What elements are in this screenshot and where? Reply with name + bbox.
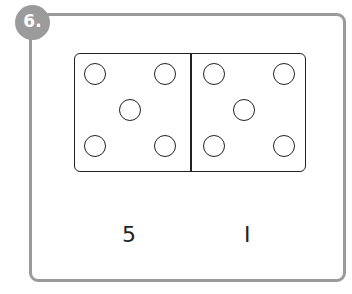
pip-icon bbox=[203, 135, 225, 157]
pip-icon bbox=[203, 63, 225, 85]
pip-icon bbox=[119, 99, 141, 121]
question-number-badge: 6. bbox=[15, 5, 50, 40]
domino bbox=[74, 53, 306, 172]
pip-icon bbox=[84, 63, 106, 85]
pip-icon bbox=[233, 99, 255, 121]
domino-divider bbox=[190, 54, 192, 171]
pip-icon bbox=[154, 135, 176, 157]
pip-icon bbox=[84, 135, 106, 157]
pip-icon bbox=[273, 63, 295, 85]
pip-icon bbox=[273, 135, 295, 157]
answer-left: 5 bbox=[122, 222, 136, 247]
pip-icon bbox=[154, 63, 176, 85]
answer-right: I bbox=[244, 222, 251, 247]
